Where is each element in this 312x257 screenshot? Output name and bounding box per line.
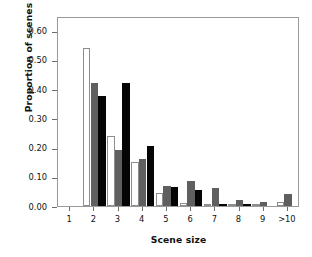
bar-gray-6 <box>187 181 195 206</box>
bar-gray-5 <box>163 186 171 206</box>
x-axis-tick-mark <box>287 207 288 211</box>
bar-gray-2 <box>91 83 99 206</box>
x-axis-tick-label: 3 <box>115 214 120 224</box>
bar-black-6 <box>195 190 203 206</box>
y-axis-tick-label: 0.30 <box>29 114 47 124</box>
plot-area <box>58 18 298 206</box>
plot-frame <box>57 17 299 207</box>
x-axis-tick-label: 6 <box>187 214 192 224</box>
x-axis-tick-label: 9 <box>260 214 265 224</box>
x-axis-title: Scene size <box>57 234 300 245</box>
bar-black-4 <box>147 146 155 206</box>
x-axis-tick-label: >10 <box>278 214 296 224</box>
bar-gray-9 <box>260 202 268 206</box>
x-axis-tick-label: 7 <box>212 214 217 224</box>
y-axis-tick-label: 0.60 <box>29 26 47 36</box>
x-axis-tick-label: 2 <box>91 214 96 224</box>
x-axis-tick-label: 1 <box>66 214 71 224</box>
x-axis-tick-mark <box>190 207 191 211</box>
y-axis-tick-label: 0.00 <box>29 202 47 212</box>
y-axis-tick-label: 0.10 <box>29 172 47 182</box>
x-axis-tick-mark <box>118 207 119 211</box>
bar-gray-4 <box>139 159 147 206</box>
bar-gray-3 <box>115 150 123 206</box>
bar-white-gt10 <box>277 202 285 206</box>
bar-gray-7 <box>212 188 220 206</box>
x-axis-tick-label: 4 <box>139 214 144 224</box>
x-axis-tick-mark <box>166 207 167 211</box>
bar-white-6 <box>180 203 188 206</box>
bar-white-2 <box>83 48 91 206</box>
x-axis-tick-mark <box>214 207 215 211</box>
x-axis-tick-mark <box>69 207 70 211</box>
y-axis-tick-label: 0.40 <box>29 85 47 95</box>
x-axis-tick-label: 5 <box>163 214 168 224</box>
y-axis-tick-mark <box>52 207 57 208</box>
bar-gray-gt10 <box>284 194 292 206</box>
bar-white-9 <box>252 204 260 206</box>
bar-gray-8 <box>236 200 244 206</box>
x-axis-tick-mark <box>263 207 264 211</box>
bar-black-2 <box>98 96 106 206</box>
x-axis-tick-mark <box>93 207 94 211</box>
bar-black-3 <box>122 83 130 206</box>
y-axis-tick-label: 0.20 <box>29 143 47 153</box>
bar-white-7 <box>204 204 212 206</box>
x-axis-tick-label: 8 <box>236 214 241 224</box>
bar-white-4 <box>131 162 139 206</box>
bar-white-8 <box>228 204 236 206</box>
bar-chart: Proportion of scenes 0.000.100.200.300.4… <box>0 0 312 257</box>
x-axis-tick-mark <box>239 207 240 211</box>
y-axis-tick-label: 0.50 <box>29 55 47 65</box>
x-axis-tick-mark <box>142 207 143 211</box>
bar-black-5 <box>171 187 179 206</box>
bar-white-5 <box>156 193 164 206</box>
bar-black-8 <box>243 204 251 206</box>
bar-black-7 <box>219 204 227 206</box>
bar-white-3 <box>107 136 115 206</box>
